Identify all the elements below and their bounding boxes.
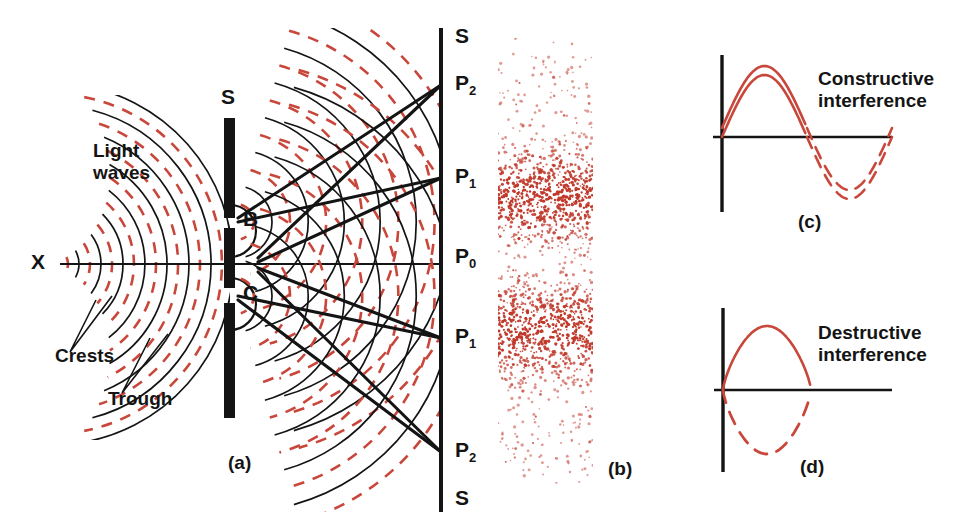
fringe-pattern bbox=[496, 37, 594, 484]
light-waves-label: Light waves bbox=[93, 140, 150, 185]
screen-label-s: S bbox=[455, 24, 469, 49]
constructive-interference-label: Constructive interference bbox=[818, 68, 934, 113]
caption-d: (d) bbox=[800, 456, 824, 478]
screen-label-s: S bbox=[455, 486, 469, 511]
crests-label: Crests bbox=[55, 345, 114, 367]
screen-label-p1: P1 bbox=[455, 324, 476, 352]
slit-wavefront-crest bbox=[284, 48, 416, 396]
screen-label-p2: P2 bbox=[455, 71, 476, 99]
panel-c-wave-2-crest bbox=[722, 75, 805, 137]
panel-d-wave-trough bbox=[723, 390, 810, 454]
source-label-x: X bbox=[31, 250, 45, 275]
caption-a: (a) bbox=[228, 452, 251, 474]
slit-label-c: C bbox=[243, 281, 258, 306]
caption-b: (b) bbox=[608, 458, 632, 480]
panel-d-wave-crest bbox=[723, 326, 810, 390]
screen-label-p2: P2 bbox=[455, 438, 476, 466]
trough-label: Trough bbox=[108, 388, 172, 410]
caption-c: (c) bbox=[798, 211, 821, 233]
screen-label-p0: P0 bbox=[455, 244, 476, 272]
slit-label-b: B bbox=[243, 207, 258, 232]
barrier-label-s-top: S bbox=[221, 85, 235, 110]
barrier-with-slits bbox=[224, 118, 256, 418]
destructive-interference-label: Destructive interference bbox=[818, 322, 927, 367]
figure-canvas: X S Light waves Crests Trough B C SP2P1P… bbox=[0, 0, 965, 525]
panel-c-wave-2-trough bbox=[807, 137, 892, 199]
screen-label-p1: P1 bbox=[455, 164, 476, 192]
secondary-wavefronts bbox=[241, 0, 470, 522]
